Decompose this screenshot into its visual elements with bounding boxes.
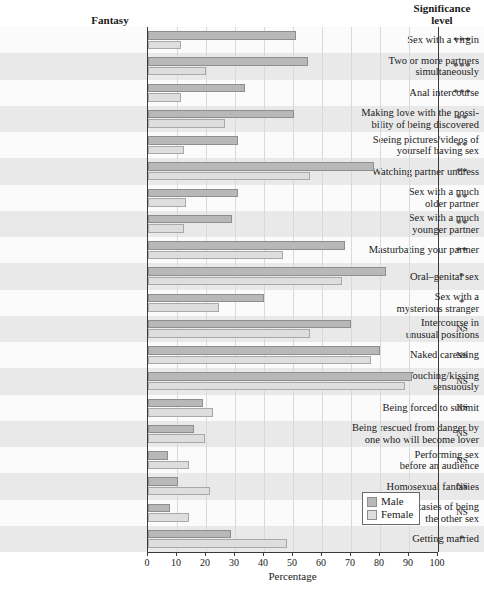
significance-value: ** (439, 106, 484, 132)
gridline-50 (293, 27, 294, 552)
bar-male (148, 241, 345, 250)
significance-value: ** (439, 211, 484, 237)
significance-value: NS (439, 368, 484, 394)
significance-panel: ***********************NSNSNSNSNSNSNSNS* (438, 27, 484, 552)
bar-male (148, 504, 170, 513)
gridline-60 (322, 27, 323, 552)
legend-swatch-male-icon (367, 497, 377, 507)
x-tick-30 (234, 552, 235, 556)
x-axis-label: Percentage (147, 570, 438, 582)
significance-value: *** (439, 80, 484, 106)
gridline-40 (264, 27, 265, 552)
bar-female (148, 513, 189, 522)
bar-female (148, 146, 184, 155)
bar-female (148, 329, 310, 338)
bar-female (148, 198, 186, 207)
bar-male (148, 110, 294, 119)
horizontal-bar-chart: Fantasy Significance level Sex with a vi… (0, 0, 484, 598)
significance-value: ** (439, 185, 484, 211)
bar-female (148, 119, 225, 128)
bar-male (148, 162, 374, 171)
x-tick-label-0: 0 (134, 557, 160, 568)
bar-male (148, 530, 231, 539)
x-tick-label-10: 10 (163, 557, 189, 568)
significance-header-line1: Significance (404, 2, 480, 14)
significance-value: * (439, 263, 484, 289)
significance-value: ** (439, 158, 484, 184)
x-tick-60 (321, 552, 322, 556)
x-tick-label-30: 30 (221, 557, 247, 568)
x-tick-label-60: 60 (308, 557, 334, 568)
bar-female (148, 487, 210, 496)
bar-female (148, 303, 219, 312)
significance-value: *** (439, 27, 484, 53)
bar-female (148, 277, 342, 286)
legend-swatch-female-icon (367, 510, 377, 520)
bar-female (148, 251, 283, 260)
significance-value: NS (439, 473, 484, 499)
bar-male (148, 346, 380, 355)
significance-value: ** (439, 132, 484, 158)
bar-female (148, 382, 405, 391)
x-tick-70 (350, 552, 351, 556)
chart-legend: Male Female (362, 492, 420, 525)
bar-male (148, 31, 296, 40)
legend-label-female: Female (381, 508, 413, 521)
x-tick-90 (408, 552, 409, 556)
bar-male (148, 451, 168, 460)
bar-female (148, 41, 181, 50)
bar-female (148, 356, 371, 365)
x-tick-10 (176, 552, 177, 556)
x-tick-label-100: 100 (424, 557, 450, 568)
x-tick-label-80: 80 (366, 557, 392, 568)
significance-value: NS (439, 395, 484, 421)
legend-item-female: Female (367, 508, 413, 521)
x-tick-100 (437, 552, 438, 556)
significance-value: * (439, 526, 484, 552)
bar-female (148, 461, 189, 470)
x-tick-40 (263, 552, 264, 556)
x-tick-label-90: 90 (395, 557, 421, 568)
fantasy-column-header: Fantasy (60, 14, 160, 26)
plot-area (147, 27, 438, 552)
bar-female (148, 408, 213, 417)
bar-female (148, 224, 184, 233)
x-tick-20 (205, 552, 206, 556)
x-tick-label-20: 20 (192, 557, 218, 568)
significance-value: NS (439, 421, 484, 447)
gridline-80 (380, 27, 381, 552)
significance-column-header: Significance level (404, 2, 480, 26)
significance-value: ** (439, 237, 484, 263)
bar-male (148, 136, 238, 145)
bar-male (148, 320, 351, 329)
x-tick-0 (147, 552, 148, 556)
x-tick-label-40: 40 (250, 557, 276, 568)
bar-male (148, 399, 203, 408)
significance-value: *** (439, 53, 484, 79)
significance-value: NS (439, 447, 484, 473)
bar-female (148, 172, 310, 181)
legend-label-male: Male (381, 495, 404, 508)
x-tick-50 (292, 552, 293, 556)
bar-male (148, 57, 308, 66)
bar-female (148, 93, 181, 102)
significance-value: NS (439, 316, 484, 342)
significance-header-line2: level (404, 14, 480, 26)
bar-male (148, 215, 232, 224)
bar-male (148, 425, 194, 434)
bar-male (148, 84, 245, 93)
bar-male (148, 294, 264, 303)
bar-male (148, 372, 412, 381)
x-tick-label-70: 70 (337, 557, 363, 568)
bar-female (148, 67, 206, 76)
bar-female (148, 434, 205, 443)
significance-value: * (439, 290, 484, 316)
bar-male (148, 267, 386, 276)
gridline-70 (351, 27, 352, 552)
gridline-20 (206, 27, 207, 552)
bar-male (148, 189, 238, 198)
significance-value: NS (439, 500, 484, 526)
significance-value: NS (439, 342, 484, 368)
x-tick-80 (379, 552, 380, 556)
legend-item-male: Male (367, 495, 413, 508)
